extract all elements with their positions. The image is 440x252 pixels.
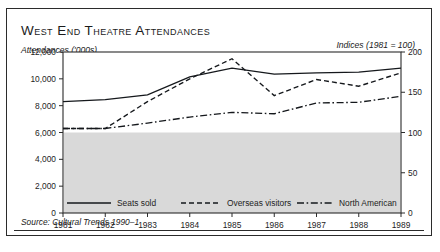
right-axis-tick-label: 150 (408, 87, 422, 97)
legend-label-seats-sold: Seats sold (117, 198, 156, 208)
line-chart-plot: 02,0004,0006,0008,00010,00012,0000501001… (7, 9, 433, 237)
left-axis-tick-label: 6,000 (35, 128, 56, 138)
source-note: Source: Cultural Trends 1990–1 (21, 217, 139, 227)
right-axis-tick-label: 100 (408, 128, 422, 138)
legend-label-overseas-visitors: Overseas visitors (227, 198, 291, 208)
right-axis-tick-label: 50 (408, 168, 418, 178)
legend-label-north-american: North American (339, 198, 397, 208)
right-axis-tick-label: 200 (408, 47, 422, 57)
left-axis-tick-label: 10,000 (30, 74, 56, 84)
x-axis-tick-label: 1986 (265, 220, 284, 230)
x-axis-tick-label: 1985 (223, 220, 242, 230)
x-axis-tick-label: 1984 (180, 220, 199, 230)
x-axis-tick-label: 1988 (349, 220, 368, 230)
x-axis-tick-label: 1989 (392, 220, 411, 230)
x-axis-tick-label: 1983 (138, 220, 157, 230)
left-axis-tick-label: 2,000 (35, 181, 56, 191)
chart-figure: West End Theatre Attendances Attendances… (6, 8, 432, 236)
x-axis-tick-label: 1987 (307, 220, 326, 230)
left-axis-tick-label: 8,000 (35, 101, 56, 111)
source-divider (14, 230, 424, 231)
right-axis-tick-label: 0 (408, 208, 413, 218)
left-axis-tick-label: 4,000 (35, 154, 56, 164)
left-axis-tick-label: 12,000 (30, 47, 56, 57)
